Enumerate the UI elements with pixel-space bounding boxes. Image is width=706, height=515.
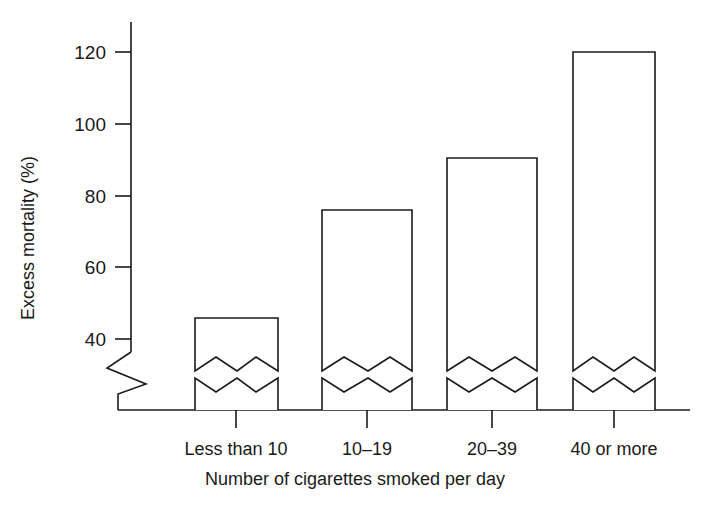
y-tick-label-40: 40 <box>85 329 106 350</box>
bar-body-3[interactable] <box>573 52 655 371</box>
x-category-label-3: 40 or more <box>570 439 657 459</box>
chart-figure: 120 100 80 60 40 Excess mortality (%) Le… <box>0 0 706 515</box>
x-axis-title: Number of cigarettes smoked per day <box>205 469 505 489</box>
y-tick-label-80: 80 <box>85 186 106 207</box>
bar-body-2[interactable] <box>447 158 537 371</box>
x-category-label-2: 20–39 <box>467 439 517 459</box>
bar-body-1[interactable] <box>322 210 412 371</box>
y-tick-label-60: 60 <box>85 257 106 278</box>
x-category-label-1: 10–19 <box>342 439 392 459</box>
y-tick-label-100: 100 <box>74 114 106 135</box>
y-tick-label-120: 120 <box>74 42 106 63</box>
bar-body-0[interactable] <box>195 318 278 371</box>
bar-chart-svg: 120 100 80 60 40 Excess mortality (%) Le… <box>0 0 706 515</box>
y-axis-title: Excess mortality (%) <box>18 156 38 320</box>
x-category-label-0: Less than 10 <box>184 439 287 459</box>
bar-group-3 <box>573 52 655 410</box>
